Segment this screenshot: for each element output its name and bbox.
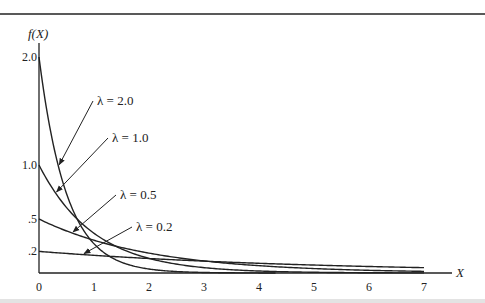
x-tick-label: 3 — [201, 280, 207, 294]
annotation-arrow — [59, 101, 93, 165]
x-axis-label: X — [455, 265, 465, 280]
annotation-arrow — [57, 138, 109, 192]
annotations: λ = 2.0λ = 1.0λ = 0.5λ = 0.2 — [57, 93, 173, 254]
curve-lambda-1 — [39, 165, 424, 273]
curve-lambda-2 — [39, 57, 276, 273]
curve-lambda-0-5 — [39, 219, 424, 271]
annotation-label: λ = 1.0 — [112, 130, 148, 145]
x-tick-label: 5 — [311, 280, 317, 294]
y-axis-label: f(X) — [28, 26, 48, 41]
annotation-label: λ = 2.0 — [97, 93, 133, 108]
x-tick-label: 1 — [91, 280, 97, 294]
y-tick-label: .5 — [28, 212, 37, 226]
y-tick-label: 1.0 — [22, 158, 37, 172]
bottom-border — [0, 299, 485, 303]
curve-lambda-0-2 — [39, 251, 424, 267]
annotation-arrow — [73, 195, 116, 232]
y-tick-label: 2.0 — [22, 50, 37, 64]
x-tick-label: 0 — [36, 280, 42, 294]
axes: f(X)X012345672.01.0.5.2 — [22, 26, 465, 294]
annotation-label: λ = 0.2 — [136, 219, 172, 234]
x-tick-label: 2 — [146, 280, 152, 294]
x-tick-label: 6 — [366, 280, 372, 294]
exponential-density-chart: f(X)X012345672.01.0.5.2 λ = 2.0λ = 1.0λ … — [0, 0, 485, 303]
y-tick-label: .2 — [28, 244, 37, 258]
x-tick-label: 7 — [421, 280, 427, 294]
annotation-label: λ = 0.5 — [120, 187, 156, 202]
curves — [39, 57, 424, 273]
x-tick-label: 4 — [256, 280, 262, 294]
